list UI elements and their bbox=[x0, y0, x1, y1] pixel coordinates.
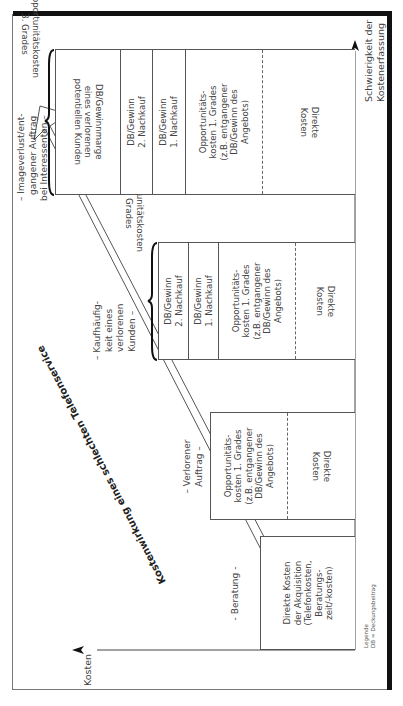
cell-line: DB/Gewinn bbox=[126, 96, 137, 147]
column-label-line: Kunden – bbox=[127, 280, 139, 360]
legend-title: Legende bbox=[363, 584, 370, 648]
column-label-kaufhaeufigkeit: – Kaufhäufig- keit eines verlorenen Kund… bbox=[92, 280, 138, 360]
y-axis-label: Kosten bbox=[82, 654, 93, 686]
x-axis-label-line1: Schwierigkeit der bbox=[363, 20, 375, 102]
cost-column-beratung: Direkte Kosten der Akquisition (Telefonk… bbox=[260, 536, 355, 650]
cell-line: DB/Gewinn des bbox=[229, 83, 240, 160]
column-label-line: keit eines bbox=[104, 280, 116, 360]
column-label-line: verlorenen bbox=[115, 280, 127, 360]
cell-line: (Telefonkosten, bbox=[303, 560, 314, 625]
cell-line: eines verlorenen bbox=[83, 79, 94, 165]
cell-line: kosten 1. Grades bbox=[241, 262, 252, 339]
cell-line: Opportunitäts- bbox=[198, 83, 209, 160]
cell-line: Direkte Kosten bbox=[282, 560, 293, 625]
cell-line: Direkte bbox=[326, 285, 337, 316]
cost-cell-direkte-kosten: Direkte Kosten bbox=[263, 50, 356, 194]
brace-label-line: Opportunitätskosten bbox=[31, 0, 42, 94]
cost-cell-db-1-nachkauf: DB/Gewinn 1. Nachkauf bbox=[153, 50, 186, 194]
cell-line: Opportunitäts- bbox=[231, 262, 242, 339]
y-axis-arrowhead bbox=[72, 646, 84, 654]
cell-line: DB/Gewinnmarge bbox=[93, 79, 104, 165]
cost-cell-opportunitaet-1: Opportunitäts- kosten 1. Grades (z.B. en… bbox=[219, 243, 296, 359]
cell-line: DB/Gewinn des bbox=[262, 262, 273, 339]
x-axis-label: Schwierigkeit der Kostenerfassung bbox=[363, 20, 387, 102]
cost-cell-direkte-kosten: Direkte Kosten bbox=[288, 413, 356, 519]
cost-column-verlorener-auftrag: Opportunitäts- kosten 1. Grades (z.B. en… bbox=[210, 412, 355, 520]
column-label-beratung: - Beratung - bbox=[230, 537, 242, 650]
cell-line: DB/Gewinn bbox=[158, 96, 169, 147]
cell-line: kosten 1. Grades bbox=[208, 83, 219, 160]
legend: Legende DB = Deckungsbeitrag bbox=[363, 584, 376, 648]
cell-line: Angebots) bbox=[265, 427, 276, 504]
cell-line: Angebots) bbox=[273, 262, 284, 339]
cell-line: Angebots) bbox=[240, 83, 251, 160]
column-label-line: Auftrag – bbox=[194, 413, 206, 520]
cell-line: Kosten bbox=[315, 285, 326, 316]
cell-line: 2. Nachkauf bbox=[174, 275, 185, 326]
cell-line: potentiellen Kunden bbox=[72, 79, 83, 165]
cost-cell-opportunitaet-1: Opportunitäts- kosten 1. Grades (z.B. en… bbox=[186, 50, 263, 194]
cell-line: DB/Gewinn bbox=[163, 275, 174, 326]
cost-cell-db-1-nachkauf: DB/Gewinn 1. Nachkauf bbox=[189, 243, 219, 359]
cost-cell-db-2-nachkauf: DB/Gewinn 2. Nachkauf bbox=[159, 243, 189, 359]
cell-line: zeit/-kosten) bbox=[324, 560, 335, 625]
cost-cell-opportunitaet-1: Opportunitäts- kosten 1. Grades (z.B. en… bbox=[211, 413, 288, 519]
column-label-verlorener-auftrag: – Verlorener Auftrag – bbox=[182, 413, 205, 520]
cost-cell-direkte-akquisition: Direkte Kosten der Akquisition (Telefonk… bbox=[261, 537, 356, 649]
cell-line: der Akquisition bbox=[293, 560, 304, 625]
cost-cell-db-gewinnmarge: DB/Gewinnmarge eines verlorenen potentie… bbox=[56, 50, 121, 194]
cell-line: Beratungs- bbox=[314, 560, 325, 625]
cell-line: kosten 1. Grades bbox=[233, 427, 244, 504]
cell-line: (z.B. entgangener bbox=[244, 427, 255, 504]
cell-line: 1. Nachkauf bbox=[169, 96, 180, 147]
brace-label-line: 3. Grades bbox=[20, 0, 31, 94]
cell-line: 2. Nachkauf bbox=[137, 96, 148, 147]
cost-cell-direkte-kosten: Direkte Kosten bbox=[296, 243, 356, 359]
cell-line: Kosten bbox=[311, 450, 322, 481]
column-label-line: - Beratung - bbox=[230, 537, 242, 650]
column-label-line: – Kaufhäufig- bbox=[92, 280, 104, 360]
cell-line: (z.B. entgangener bbox=[219, 83, 230, 160]
diagram-canvas: Kostenwirkung eines schlechten Telefonse… bbox=[0, 0, 403, 706]
x-axis-label-line2: Kostenerfassung bbox=[375, 20, 387, 102]
cell-line: DB/Gewinn bbox=[193, 275, 204, 326]
cell-line: Direkte bbox=[322, 450, 333, 481]
column-label-line: – Verlorener bbox=[182, 413, 194, 520]
cell-line: 1. Nachkauf bbox=[204, 275, 215, 326]
cost-column-imageverlust: DB/Gewinnmarge eines verlorenen potentie… bbox=[55, 49, 355, 195]
cost-cell-db-2-nachkauf: DB/Gewinn 2. Nachkauf bbox=[121, 50, 153, 194]
legend-entry: DB = Deckungsbeitrag bbox=[370, 584, 377, 648]
cell-line: DB/Gewinn des bbox=[254, 427, 265, 504]
cell-line: Direkte bbox=[310, 106, 321, 137]
brace-label-opportunitaet-3: Opportunitätskosten 3. Grades bbox=[20, 0, 41, 94]
cost-column-kaufhaeufigkeit: DB/Gewinn 2. Nachkauf DB/Gewinn 1. Nachk… bbox=[158, 242, 355, 360]
brace-col3 bbox=[148, 243, 157, 360]
cell-line: Kosten bbox=[299, 106, 310, 137]
cell-line: (z.B. entgangener bbox=[252, 262, 263, 339]
cell-line: Opportunitäts- bbox=[223, 427, 234, 504]
